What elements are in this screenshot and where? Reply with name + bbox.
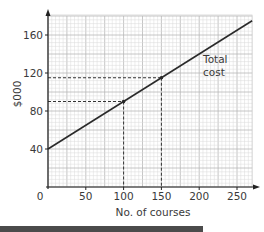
- y-tick-label: 160: [23, 29, 43, 41]
- y-tick-label: 80: [30, 105, 43, 117]
- x-tick-label: 50: [79, 190, 92, 202]
- annotation-total: Total: [202, 53, 228, 65]
- bottom-bar: [0, 226, 203, 232]
- annotation-cost: cost: [203, 66, 225, 78]
- origin-label: 0: [37, 190, 44, 202]
- x-axis-arrow-icon: [253, 185, 260, 190]
- y-tick-label: 120: [23, 67, 43, 79]
- dashed-guides: [48, 76, 163, 187]
- x-tick-label: 100: [114, 190, 134, 202]
- chart: 501001502002504080120160 0 No. of course…: [0, 0, 264, 232]
- x-tick-label: 250: [227, 190, 247, 202]
- y-axis-arrow-icon: [46, 9, 51, 16]
- x-tick-label: 200: [189, 190, 209, 202]
- y-tick-label: 40: [30, 143, 43, 155]
- x-tick-label: 150: [151, 190, 171, 202]
- y-axis-label: $000: [11, 81, 23, 108]
- x-axis-label: No. of courses: [116, 206, 191, 218]
